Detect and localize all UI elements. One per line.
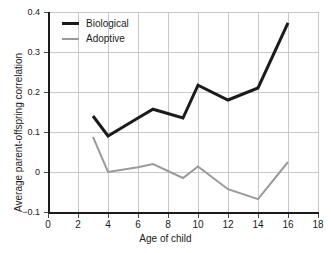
plot-lines [0,0,331,253]
legend-item-biological: Biological [62,16,129,31]
chart-legend: Biological Adoptive [62,16,129,46]
legend-label-biological: Biological [86,18,129,29]
legend-item-adoptive: Adoptive [62,31,129,46]
series-line-adoptive [93,137,288,199]
legend-label-adoptive: Adoptive [86,33,125,44]
chart-container: 0.40.30.20.10−0.1 024681012141618 Averag… [0,0,331,253]
legend-swatch-biological-icon [62,22,79,25]
legend-swatch-adoptive-icon [62,38,79,40]
